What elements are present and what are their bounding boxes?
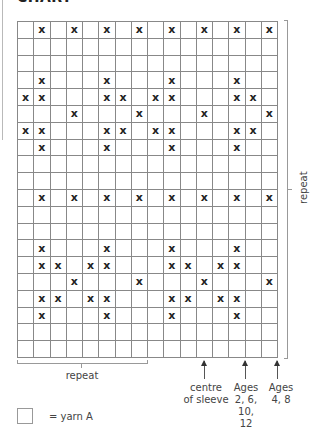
chart-cell bbox=[246, 291, 262, 308]
chart-cell bbox=[164, 341, 180, 358]
chart-cell bbox=[83, 39, 99, 56]
chart-cell bbox=[213, 72, 229, 89]
chart-cell bbox=[83, 324, 99, 341]
chart-cell bbox=[246, 72, 262, 89]
chart-cell bbox=[181, 156, 197, 173]
chart-cell bbox=[83, 207, 99, 224]
chart-cell bbox=[229, 173, 245, 190]
chart-cell bbox=[132, 173, 148, 190]
chart-cell bbox=[246, 240, 262, 257]
chart-cell-x: x bbox=[34, 89, 50, 106]
chart-cell bbox=[67, 308, 83, 325]
chart-cell bbox=[181, 341, 197, 358]
chart-cell bbox=[51, 190, 67, 207]
chart-cell bbox=[164, 274, 180, 291]
chart-cell bbox=[83, 72, 99, 89]
chart-cell bbox=[18, 324, 34, 341]
chart-cell bbox=[18, 240, 34, 257]
chart-cell bbox=[213, 173, 229, 190]
chart-cell-x: x bbox=[164, 291, 180, 308]
chart-cell-x: x bbox=[229, 240, 245, 257]
chart-cell bbox=[67, 89, 83, 106]
chart-cell-x: x bbox=[34, 22, 50, 39]
chart-cell bbox=[213, 106, 229, 123]
chart-cell bbox=[229, 106, 245, 123]
chart-cell bbox=[148, 257, 164, 274]
chart-cell bbox=[67, 324, 83, 341]
ages-4-8-label: Ages 4, 8 bbox=[265, 382, 297, 406]
chart-cell bbox=[229, 156, 245, 173]
chart-cell-x: x bbox=[116, 123, 132, 140]
chart-cell bbox=[51, 56, 67, 73]
chart-cell bbox=[18, 106, 34, 123]
chart-cell bbox=[132, 72, 148, 89]
chart-cell-x: x bbox=[197, 190, 213, 207]
chart-cell bbox=[262, 72, 278, 89]
chart-cell-x: x bbox=[164, 240, 180, 257]
chart-cell-x: x bbox=[99, 190, 115, 207]
chart-cell bbox=[181, 324, 197, 341]
chart-cell bbox=[213, 190, 229, 207]
chart-cell bbox=[262, 39, 278, 56]
vertical-repeat-label: repeat bbox=[297, 174, 311, 204]
chart-cell-x: x bbox=[164, 123, 180, 140]
chart-cell bbox=[18, 207, 34, 224]
chart-cell bbox=[51, 173, 67, 190]
chart-cell-x: x bbox=[67, 274, 83, 291]
chart-cell bbox=[148, 308, 164, 325]
chart-cell bbox=[116, 341, 132, 358]
chart-cell-x: x bbox=[164, 140, 180, 157]
chart-cell bbox=[67, 257, 83, 274]
chart-cell bbox=[229, 207, 245, 224]
ages-2-6-10-12-label: Ages 2, 6, 10, 12 bbox=[230, 382, 262, 430]
chart-cell bbox=[83, 89, 99, 106]
chart-cell bbox=[18, 190, 34, 207]
chart-cell-x: x bbox=[181, 257, 197, 274]
chart-cell bbox=[116, 140, 132, 157]
chart-cell bbox=[197, 56, 213, 73]
chart-cell bbox=[67, 56, 83, 73]
chart-cell bbox=[262, 224, 278, 241]
chart-cell bbox=[18, 341, 34, 358]
chart-cell bbox=[148, 56, 164, 73]
chart-cell bbox=[34, 341, 50, 358]
chart-cell bbox=[34, 224, 50, 241]
chart-cell-x: x bbox=[132, 22, 148, 39]
chart-cell-x: x bbox=[229, 308, 245, 325]
chart-cell bbox=[262, 156, 278, 173]
chart-cell bbox=[197, 257, 213, 274]
chart-cell bbox=[67, 291, 83, 308]
chart-cell-x: x bbox=[67, 106, 83, 123]
chart-cell bbox=[99, 224, 115, 241]
chart-cell-x: x bbox=[99, 291, 115, 308]
chart-cell bbox=[262, 89, 278, 106]
chart-cell bbox=[262, 123, 278, 140]
chart-cell bbox=[213, 308, 229, 325]
chart-cell bbox=[132, 224, 148, 241]
chart-cell bbox=[246, 140, 262, 157]
chart-cell bbox=[132, 123, 148, 140]
chart-cell bbox=[246, 173, 262, 190]
chart-cell bbox=[197, 324, 213, 341]
chart-cell bbox=[148, 39, 164, 56]
chart-cell bbox=[51, 140, 67, 157]
chart-cell bbox=[148, 190, 164, 207]
chart-cell bbox=[51, 207, 67, 224]
legend-yarn-a-label: = yarn A bbox=[49, 411, 93, 422]
chart-cell bbox=[67, 39, 83, 56]
chart-cell-x: x bbox=[99, 123, 115, 140]
chart-cell bbox=[246, 341, 262, 358]
chart-cell bbox=[213, 224, 229, 241]
chart-cell bbox=[116, 224, 132, 241]
chart-cell bbox=[181, 140, 197, 157]
chart-cell-x: x bbox=[99, 240, 115, 257]
chart-cell bbox=[132, 56, 148, 73]
chart-cell bbox=[116, 173, 132, 190]
chart-cell bbox=[51, 22, 67, 39]
chart-cell bbox=[262, 173, 278, 190]
chart-cell bbox=[83, 106, 99, 123]
horizontal-repeat-label: repeat bbox=[52, 370, 112, 381]
chart-cell-x: x bbox=[83, 257, 99, 274]
chart-cell bbox=[18, 291, 34, 308]
chart-cell bbox=[34, 173, 50, 190]
